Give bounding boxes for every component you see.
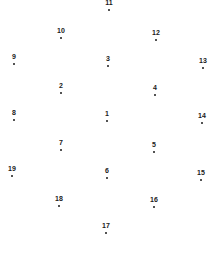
point-marker bbox=[105, 232, 107, 234]
point-marker bbox=[58, 205, 60, 207]
point-marker bbox=[200, 179, 202, 181]
point-label: 7 bbox=[59, 139, 63, 147]
point-label: 11 bbox=[105, 0, 112, 7]
point-label: 15 bbox=[197, 169, 205, 177]
point-label: 14 bbox=[198, 112, 206, 120]
point-marker bbox=[153, 206, 155, 208]
point-diagram: 1 2 3 4 5 6 7 8 9 10 11 12 13 14 15 16 1… bbox=[0, 0, 223, 253]
point-label: 17 bbox=[102, 222, 110, 230]
point-label: 10 bbox=[57, 27, 65, 35]
point-marker bbox=[201, 122, 203, 124]
point-marker bbox=[202, 67, 204, 69]
point-marker bbox=[107, 65, 109, 67]
point-marker bbox=[108, 9, 110, 11]
point-label: 8 bbox=[12, 109, 16, 117]
point-marker bbox=[60, 37, 62, 39]
point-label: 3 bbox=[106, 55, 110, 63]
point-label: 13 bbox=[199, 57, 207, 65]
point-label: 18 bbox=[55, 195, 63, 203]
point-marker bbox=[60, 149, 62, 151]
point-marker bbox=[153, 151, 155, 153]
point-marker bbox=[13, 119, 15, 121]
point-marker bbox=[106, 120, 108, 122]
point-marker bbox=[155, 39, 157, 41]
point-marker bbox=[106, 177, 108, 179]
point-marker bbox=[60, 92, 62, 94]
point-label: 9 bbox=[12, 53, 16, 61]
point-label: 2 bbox=[59, 82, 63, 90]
point-label: 16 bbox=[150, 196, 158, 204]
point-marker bbox=[13, 63, 15, 65]
point-label: 5 bbox=[152, 141, 156, 149]
point-label: 12 bbox=[152, 29, 160, 37]
point-marker bbox=[154, 94, 156, 96]
point-label: 19 bbox=[8, 165, 16, 173]
point-label: 1 bbox=[105, 110, 109, 118]
point-label: 4 bbox=[153, 84, 157, 92]
point-marker bbox=[11, 175, 13, 177]
point-label: 6 bbox=[105, 167, 109, 175]
